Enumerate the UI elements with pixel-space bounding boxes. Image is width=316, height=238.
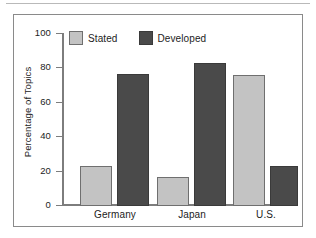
chart-legend: Stated Developed <box>69 31 206 45</box>
y-tick-label-100: 100 <box>11 28 51 38</box>
y-tick-20 <box>56 171 62 172</box>
y-tick-100 <box>56 33 62 34</box>
legend-label-developed: Developed <box>158 33 207 44</box>
legend-swatch-developed-icon <box>139 31 153 45</box>
y-tick-0 <box>56 205 62 206</box>
y-tick-60 <box>56 102 62 103</box>
figure-frame: 100 80 60 40 20 0 Percentage of Topics S… <box>13 14 303 227</box>
legend-item-developed: Developed <box>139 31 207 45</box>
bar-germany-stated <box>80 166 112 206</box>
y-axis-title: Percentage of Topics <box>23 42 33 182</box>
bar-japan-stated <box>157 177 189 206</box>
legend-item-stated: Stated <box>69 31 118 45</box>
bar-us-developed <box>270 166 298 206</box>
chart-page: 100 80 60 40 20 0 Percentage of Topics S… <box>0 0 316 238</box>
y-tick-label-0: 0 <box>11 200 51 210</box>
bar-japan-developed <box>194 63 226 206</box>
x-tick-label-us: U.S. <box>221 209 311 220</box>
y-axis-line <box>62 33 64 206</box>
page-top-rule <box>6 3 310 4</box>
plot-area: 100 80 60 40 20 0 Percentage of Topics S… <box>14 15 304 228</box>
legend-swatch-stated-icon <box>69 31 83 45</box>
bar-us-stated <box>233 75 265 206</box>
legend-label-stated: Stated <box>88 33 118 44</box>
bar-germany-developed <box>117 74 149 206</box>
y-tick-40 <box>56 136 62 137</box>
y-tick-80 <box>56 67 62 68</box>
